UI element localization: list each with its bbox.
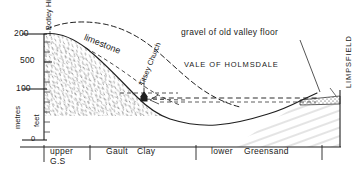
church-symbol (140, 88, 148, 102)
y-axis-feet-label: feet (33, 114, 41, 127)
stratum-label-greensand: Greensand (244, 147, 289, 156)
label-gravel-old-valley-floor: gravel of old valley floor (181, 28, 278, 37)
y-tick-100: 100 (16, 84, 31, 93)
limpsfield-leader (330, 88, 336, 96)
stratum-label-gault: Gault (106, 147, 128, 156)
gravel-leader-line (300, 40, 320, 92)
stratum-label-lower: lower (211, 147, 233, 156)
y-axis-metres-label: metres (14, 106, 22, 129)
stratum-label-upper-gs-line2: G.S (50, 157, 66, 166)
stratum-label-clay: Clay (137, 147, 155, 156)
cross-section-figure: 200 500 100 0 metres feet Botley Hill li… (0, 0, 362, 169)
y-tick-200: 200 (14, 29, 29, 38)
label-botley-hill: Botley Hill (45, 0, 53, 30)
y-tick-500-feet: 500 (20, 56, 35, 65)
label-vale-of-holmsdale: VALE OF HOLMSDALE (184, 61, 279, 69)
y-tick-0-metres: 0 (31, 135, 35, 143)
stratum-label-upper-gs-line1: upper (50, 147, 73, 156)
cross-section-canvas (0, 0, 362, 169)
label-limpsfield: LIMPSFIELD (345, 35, 353, 88)
